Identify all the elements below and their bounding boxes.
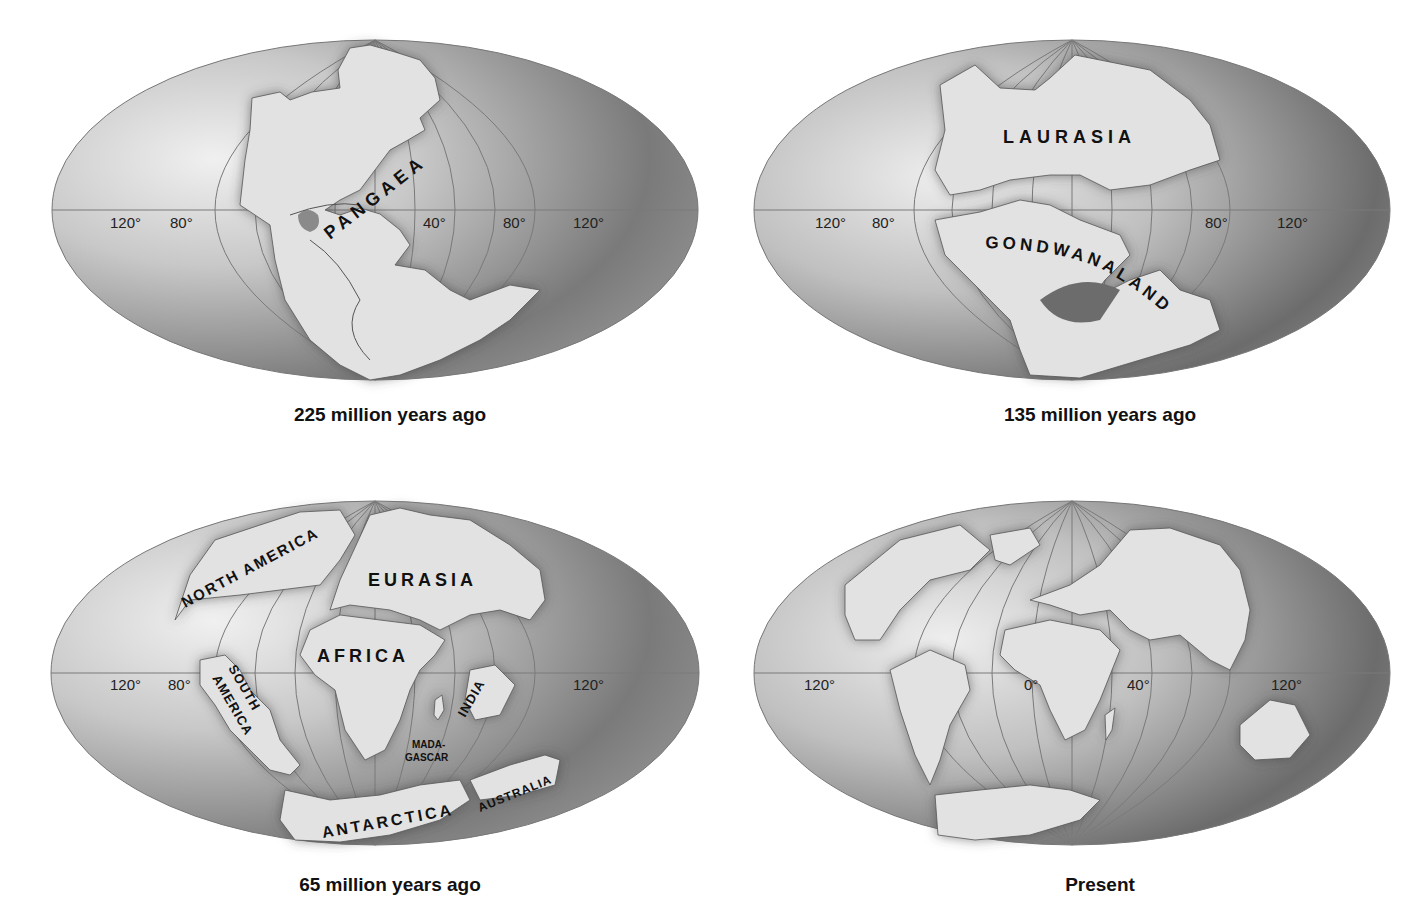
longitude-label: 80° — [1205, 214, 1228, 231]
longitude-label: 120° — [110, 676, 141, 693]
longitude-label: 80° — [503, 214, 526, 231]
map-panel-present: 120° 0° 40° 120° Present — [750, 490, 1423, 924]
island-label-mada: MADA- — [412, 739, 445, 750]
longitude-label: 120° — [804, 676, 835, 693]
globe-map-135mya: 120° 80° 80° 120° LAURASIA GONDWANALAND — [750, 0, 1423, 440]
longitude-label: 80° — [168, 676, 191, 693]
island-label-gascar: GASCAR — [405, 752, 449, 763]
globe-map-225mya: 120° 80° 40° 80° 120° PANGAEA — [40, 0, 740, 440]
longitude-label: 120° — [815, 214, 846, 231]
longitude-label: 40° — [1127, 676, 1150, 693]
longitude-label: 40° — [423, 214, 446, 231]
longitude-label: 80° — [170, 214, 193, 231]
panel-caption: 135 million years ago — [750, 404, 1423, 426]
globe-map-65mya: 120° 80° 120° NORTH AMERICA EURASIA AFRI… — [40, 490, 740, 924]
map-panel-225mya: 120° 80° 40° 80° 120° PANGAEA 225 millio… — [40, 0, 740, 440]
continent-label-laurasia: LAURASIA — [1003, 127, 1136, 147]
panel-caption: Present — [750, 874, 1423, 896]
map-panel-135mya: 120° 80° 80° 120° LAURASIA GONDWANALAND … — [750, 0, 1423, 440]
longitude-label: 120° — [1271, 676, 1302, 693]
longitude-label: 0° — [1024, 676, 1038, 693]
map-panel-65mya: 120° 80° 120° NORTH AMERICA EURASIA AFRI… — [40, 490, 740, 924]
panel-caption: 65 million years ago — [40, 874, 740, 896]
globe-map-present: 120° 0° 40° 120° — [750, 490, 1423, 924]
continent-label-eurasia: EURASIA — [368, 570, 477, 590]
panel-caption: 225 million years ago — [40, 404, 740, 426]
longitude-label: 120° — [110, 214, 141, 231]
longitude-label: 80° — [872, 214, 895, 231]
longitude-label: 120° — [573, 214, 604, 231]
longitude-label: 120° — [1277, 214, 1308, 231]
longitude-label: 120° — [573, 676, 604, 693]
continent-label-africa: AFRICA — [317, 646, 409, 666]
